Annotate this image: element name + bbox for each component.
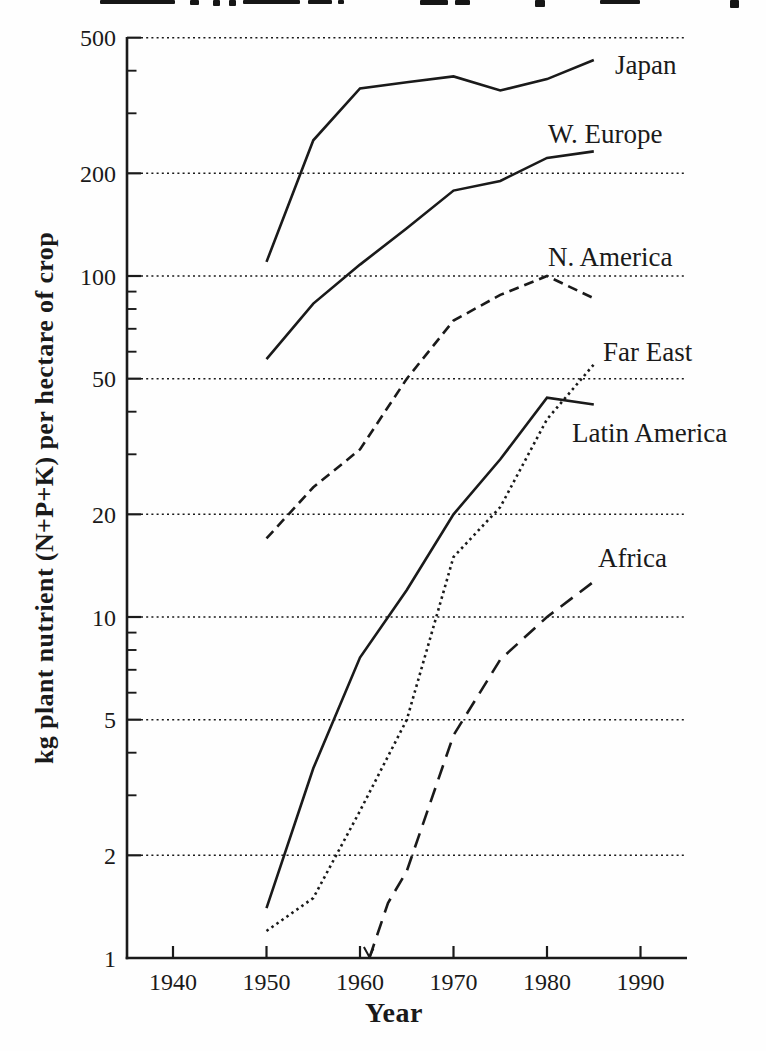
x-tick-label-1970: 1970	[430, 969, 478, 995]
series-line-n-america	[267, 276, 594, 538]
series-line-africa	[369, 582, 593, 958]
series-line-japan	[267, 60, 594, 262]
series-line-w-europe	[267, 151, 594, 359]
x-tick-label-1990: 1990	[617, 969, 665, 995]
x-tick-label-1980: 1980	[523, 969, 571, 995]
fertilizer-use-by-region-chart: 5002001005020105211940195019601970198019…	[0, 0, 766, 1051]
y-tick-label-50: 50	[92, 366, 116, 392]
x-axis-title: Year	[294, 997, 494, 1029]
series-label-w-europe: W. Europe	[548, 119, 662, 149]
y-tick-label-10: 10	[92, 605, 116, 631]
y-tick-label-1: 1	[104, 946, 116, 972]
series-label-japan: Japan	[615, 50, 677, 80]
y-tick-label-2: 2	[104, 843, 116, 869]
y-tick-label-100: 100	[80, 264, 116, 290]
x-tick-label-1960: 1960	[336, 969, 384, 995]
series-line-latin-america	[267, 398, 594, 909]
x-tick-label-1950: 1950	[243, 969, 291, 995]
y-tick-label-200: 200	[80, 161, 116, 187]
y-tick-label-20: 20	[92, 502, 116, 528]
y-axis-title-text: kg plant nutrient (N+P+K) per hectare of…	[30, 232, 60, 764]
series-label-n-america: N. America	[548, 242, 672, 272]
series-label-far-east: Far East	[603, 337, 693, 367]
y-tick-label-500: 500	[80, 25, 116, 51]
y-tick-label-5: 5	[104, 707, 116, 733]
series-label-africa: Africa	[598, 543, 667, 573]
series-line-far-east	[267, 365, 594, 932]
x-tick-label-1940: 1940	[149, 969, 197, 995]
series-label-latin-america: Latin America	[572, 418, 727, 448]
